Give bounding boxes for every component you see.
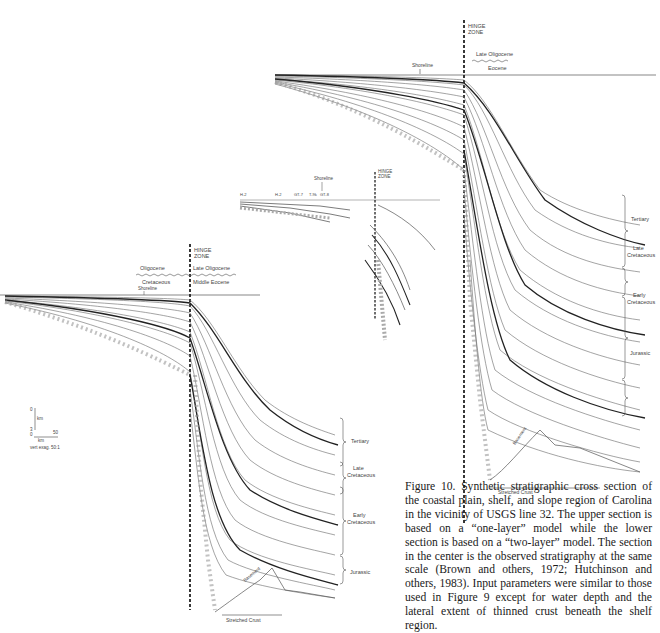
scale-label: 0	[30, 432, 33, 437]
age-cretaceous: Cretaceous	[347, 472, 375, 478]
well-label: GT-8	[320, 192, 330, 197]
hinge-label: ZONE	[378, 174, 391, 179]
hinge-label: ZONE	[468, 29, 484, 35]
age-early: Early	[353, 512, 366, 518]
age-jurassic: Jurassic	[350, 569, 370, 575]
figure-caption: Figure 10. Synthetic stratigraphic cross…	[405, 480, 652, 633]
scale-label: km	[37, 416, 43, 421]
well-label: H-2	[240, 192, 247, 197]
age-cretaceous: Cretaceous	[347, 519, 375, 525]
unconformity-label: Eocene	[488, 65, 507, 71]
age-late: Late	[633, 245, 644, 251]
scale-label: km	[38, 438, 44, 443]
well-label: H-2	[275, 192, 282, 197]
stretched-crust-label: Stretched Crust	[226, 617, 261, 623]
scale-label: vert exag. 50:1	[30, 445, 60, 450]
age-jurassic: Jurassic	[630, 350, 650, 356]
well-label: GT-7	[294, 192, 304, 197]
age-early: Early	[633, 292, 646, 298]
age-tertiary: Tertiary	[351, 438, 369, 444]
unconformity-label: Late Oligocene	[193, 265, 230, 271]
shoreline-label: Shoreline	[412, 62, 433, 68]
basement-label: Basement	[512, 425, 528, 445]
shoreline-label: Shoreline	[314, 176, 334, 181]
unconformity-label: Oligocene	[140, 265, 165, 271]
age-cretaceous: Cretaceous	[627, 299, 655, 305]
shoreline-label: Shoreline	[138, 286, 158, 291]
unconformity-label: Middle Eocene	[193, 279, 229, 285]
scale-label: 0	[30, 407, 33, 412]
scale-label: 50	[53, 430, 59, 435]
age-tertiary: Tertiary	[631, 216, 649, 222]
basement-label: Basement	[242, 565, 261, 582]
unconformity-label: Cretaceous	[142, 279, 170, 285]
center-section: HINGE ZONE Shoreline H-2 H-2 GT-7 T-9k G…	[240, 169, 440, 340]
scale-bar: 0 km 3 0 50 km vert exag. 50:1	[30, 407, 60, 450]
age-cretaceous: Cretaceous	[627, 252, 655, 258]
upper-section: HINGE ZONE Shoreline Late Oligocene Eoce…	[275, 20, 656, 525]
hinge-label: ZONE	[194, 253, 210, 259]
age-late: Late	[353, 465, 364, 471]
unconformity-label: Late Oligocene	[476, 51, 513, 57]
well-label: T-9k	[309, 192, 317, 197]
